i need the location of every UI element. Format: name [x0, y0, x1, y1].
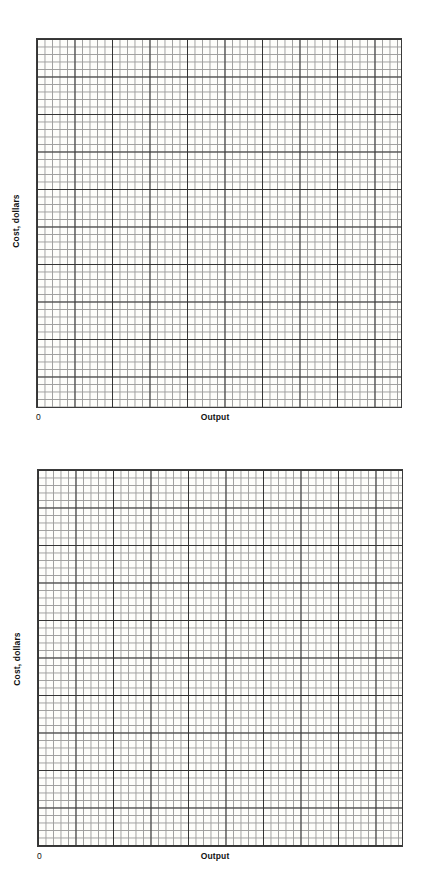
chart-figure-1: Cost, dollars Output 0 — [0, 0, 434, 445]
chart-figure-2: Cost, dollars Output 0 — [0, 445, 434, 895]
minor-gridlines-2 — [38, 470, 402, 846]
y-axis-label-1: Cost, dollars — [11, 191, 21, 251]
major-gridlines-1 — [37, 39, 401, 407]
minor-gridlines-1 — [37, 39, 401, 407]
origin-label-2: 0 — [37, 851, 42, 861]
plot-area-1 — [36, 38, 402, 408]
y-axis-label-2: Cost, dollars — [12, 629, 22, 689]
origin-label-1: 0 — [36, 412, 41, 422]
x-axis-label-2: Output — [155, 851, 275, 861]
x-axis-label-1: Output — [155, 412, 275, 422]
major-gridlines-2 — [38, 470, 402, 846]
plot-area-2 — [37, 469, 403, 847]
